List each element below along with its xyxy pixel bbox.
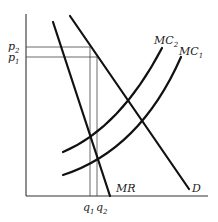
monopoly-diagram: p2 p1 q1 q2 MC2 MC1 MR D [0,0,218,222]
mc1-curve [63,57,181,175]
mr-curve [53,22,110,196]
mc1-label: MC1 [178,45,203,60]
q1-label: q1 [83,201,95,216]
q2-label: q2 [96,201,108,216]
mc2-label: MC2 [153,34,179,49]
mr-label: MR [115,182,136,195]
d-label: D [191,182,201,195]
